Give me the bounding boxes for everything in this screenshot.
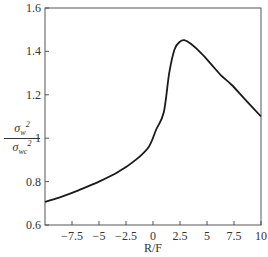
plot-area: [45, 8, 261, 225]
x-axis-title: R/F: [144, 241, 162, 255]
line-chart: 0.60.811.21.41.6 −7.5−5−2.502.557.510 R/…: [0, 0, 268, 257]
data-line: [45, 40, 261, 202]
y-tick-label: 0.8: [26, 175, 41, 189]
y-axis-title-denominator: σwc2: [4, 139, 40, 157]
x-tick-label: −7.5: [61, 229, 83, 243]
x-axis: −7.5−5−2.502.557.510: [61, 221, 267, 243]
y-tick-label: 1.2: [26, 88, 41, 102]
x-tick-label: 5: [204, 229, 210, 243]
y-axis-title-numerator: σw2: [4, 120, 40, 139]
y-axis: 0.60.811.21.41.6: [26, 1, 49, 232]
x-tick-label: 10: [255, 229, 267, 243]
x-tick-label: 2.5: [173, 229, 188, 243]
x-tick-label: 7.5: [227, 229, 242, 243]
y-tick-label: 1.6: [26, 1, 41, 15]
y-tick-label: 0.6: [26, 218, 41, 232]
x-tick-label: −2.5: [115, 229, 137, 243]
y-tick-label: 1.4: [26, 44, 41, 58]
y-axis-title: σw2 σwc2: [4, 120, 40, 158]
x-tick-label: −5: [93, 229, 106, 243]
